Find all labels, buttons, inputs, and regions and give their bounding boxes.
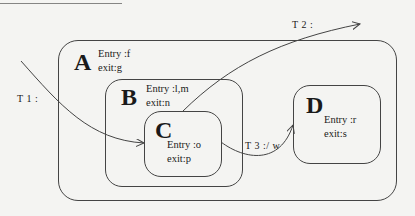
state-d-name: D (306, 93, 323, 117)
state-a-name: A (74, 50, 91, 74)
state-b-exit: exit:n (146, 96, 170, 109)
state-c-entry: Entry :o (167, 138, 201, 151)
state-a-exit: exit:g (98, 61, 122, 74)
transition-t3-label: T 3 :/ w (245, 140, 280, 151)
state-b-name: B (121, 85, 137, 109)
state-b-entry: Entry :l,m (146, 82, 189, 95)
state-d-entry: Entry :r (324, 113, 356, 126)
state-d-exit: exit:s (324, 127, 347, 140)
state-a-entry: Entry :f (98, 47, 130, 60)
transition-t1-label: T 1 : (17, 93, 38, 104)
transition-t2-label: T 2 : (292, 19, 313, 30)
state-c-exit: exit:p (167, 152, 191, 165)
